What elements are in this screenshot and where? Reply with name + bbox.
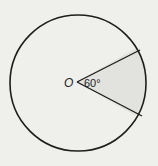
center-label: O — [64, 76, 73, 90]
circle-diagram: O 60° — [0, 0, 158, 166]
angle-label: 60° — [84, 77, 101, 89]
diagram-canvas: O 60° — [0, 0, 158, 166]
